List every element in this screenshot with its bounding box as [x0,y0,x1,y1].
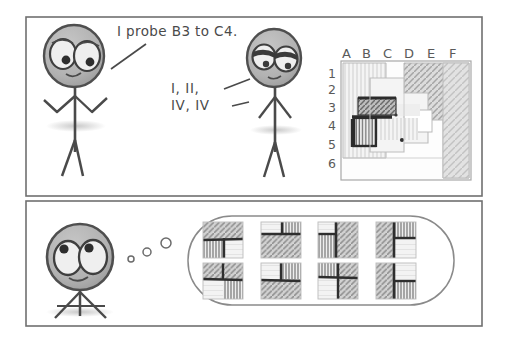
board-column-label-c: C [383,46,392,61]
thought-dot-2 [143,248,151,256]
variant-tile [376,263,416,299]
tile-q3 [318,277,338,299]
board-row-label-2: 2 [328,82,336,97]
right-figure-pupil-right [285,63,291,69]
tile-q1 [318,263,338,277]
tile-q4 [223,279,243,299]
thinker-eye-right [79,240,107,274]
tile-q2 [223,263,243,279]
tile-q4 [223,240,243,258]
tile-q3 [203,279,223,299]
tile-q4 [281,234,301,258]
tile-divider-h [203,279,243,280]
board-column-label-b: B [362,46,371,61]
thinker-pupil-right [84,243,93,252]
band-lower [370,118,418,140]
game-board[interactable]: A B C D E F 1 2 3 4 5 6 [328,46,471,180]
comic-canvas: I probe B3 to C4. I, II, IV, IV A B C D … [0,0,506,344]
territory-far-right-strip [443,63,469,178]
left-figure-eye-right [74,41,100,71]
right-figure-pupil-left [263,61,269,67]
thought-bubble [188,216,454,305]
variant-tile [203,263,243,299]
variant-tile [318,222,358,258]
bottom-panel [26,201,482,326]
left-figure-eye-left [50,39,76,69]
variant-tile [203,222,243,258]
tile-q2 [338,263,358,299]
board-column-label-f: F [449,46,456,61]
tile-q2 [281,222,301,234]
top-panel: I probe B3 to C4. I, II, IV, IV A B C D … [26,17,482,196]
marked-cell-b3[interactable] [358,98,396,115]
tile-q1 [261,263,281,279]
left-figure-pupil-right [86,58,95,67]
tile-q2 [223,222,243,240]
tile-divider-h [261,280,301,281]
speech-text-probe: I probe B3 to C4. [117,23,238,39]
thinker-pupil-left [59,244,68,253]
board-column-label-e: E [427,46,435,61]
tile-q1 [376,222,394,258]
board-row-label-4: 4 [328,118,336,133]
speech-text-roman-line2: IV, IV [171,97,210,113]
board-peg-1[interactable] [400,138,404,142]
board-column-label-a: A [342,46,351,61]
thinker-eye-left [54,241,82,275]
tile-q1 [376,263,394,299]
board-row-labels: 1 2 3 4 5 6 [328,66,336,171]
board-row-label-3: 3 [328,100,336,115]
tile-q1 [203,263,223,279]
speech-text-roman-line1: I, II, [171,80,199,96]
variant-tile [261,222,301,258]
tile-q3 [261,234,281,258]
tile-q3 [318,234,336,258]
board-row-label-6: 6 [328,156,336,171]
tile-q1 [203,222,223,240]
tile-q2 [336,222,358,258]
thought-dot-1 [128,256,134,262]
board-body[interactable] [341,61,471,180]
board-row-label-5: 5 [328,137,336,152]
left-figure-pupil-left [62,56,71,65]
board-column-label-d: D [404,46,414,61]
variant-tile [261,263,301,299]
tile-q3 [394,281,416,299]
tile-q2 [281,263,301,279]
variant-tile [318,263,358,299]
tile-q1 [261,222,281,234]
tile-q2 [394,222,416,238]
marked-cell-c4[interactable] [354,118,376,146]
thought-dot-3 [161,238,171,248]
board-peg-2[interactable] [394,113,397,116]
board-row-label-1: 1 [328,66,336,81]
tile-q3 [394,238,416,258]
variant-tile [376,222,416,258]
tile-q2 [394,263,416,281]
tile-q3 [203,240,223,258]
